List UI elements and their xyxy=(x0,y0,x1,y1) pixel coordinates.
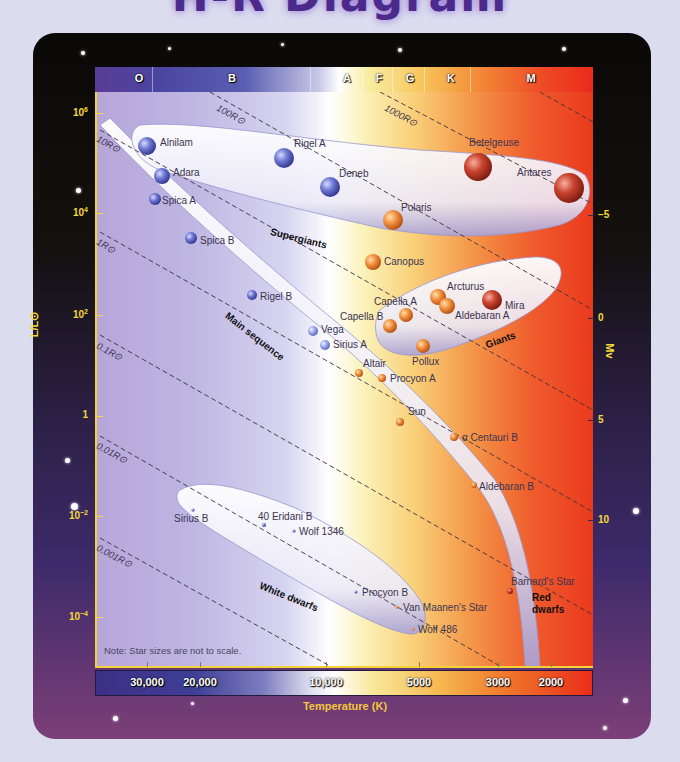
star-label: α Centauri B xyxy=(462,432,518,443)
y-right-tick-label: 10 xyxy=(598,514,609,525)
y-tick-label: 1 xyxy=(58,409,88,420)
star-label: Arcturus xyxy=(447,281,484,292)
y-right-tick-label: 0 xyxy=(598,312,604,323)
spectral-class-f: F xyxy=(376,72,383,84)
spectral-divider xyxy=(392,67,393,92)
spectral-class-o: O xyxy=(135,72,144,84)
x-axis-title: Temperature (K) xyxy=(300,700,390,712)
x-tick-label: 10,000 xyxy=(309,676,343,688)
y-tick xyxy=(97,315,103,316)
star-label: Capella A xyxy=(374,296,417,307)
star-label: Sirius A xyxy=(333,339,367,350)
y-right-tick xyxy=(588,420,594,421)
star-label: Betelgeuse xyxy=(469,137,519,148)
star-label: Antares xyxy=(517,167,551,178)
y-right-tick xyxy=(588,318,594,319)
star-label: Sirius B xyxy=(174,513,208,524)
y-right-tick xyxy=(588,215,594,216)
star-label: Mira xyxy=(505,300,524,311)
spectral-class-k: K xyxy=(447,72,455,84)
y-tick-label: 106 xyxy=(58,106,88,118)
y-right-tick xyxy=(588,520,594,521)
background-star xyxy=(398,48,402,52)
background-star xyxy=(65,458,70,463)
background-star xyxy=(281,43,284,46)
page-title: H-R Diagram xyxy=(0,0,680,18)
spectral-divider xyxy=(470,67,471,92)
y-tick-label: 10−2 xyxy=(58,509,88,521)
x-tick-label: 2000 xyxy=(539,676,563,688)
star-label: Adara xyxy=(173,167,200,178)
star-label: Van Maanen's Star xyxy=(403,602,487,613)
star-label: Barnard's Star xyxy=(511,576,575,587)
background-star xyxy=(81,51,85,55)
x-tick-label: 5000 xyxy=(407,676,431,688)
star-label: Spica A xyxy=(162,195,196,206)
spectral-divider xyxy=(424,67,425,92)
star-label: Procyon B xyxy=(362,587,408,598)
star-label: Rigel B xyxy=(260,291,292,302)
spectral-class-m: M xyxy=(526,72,535,84)
y-tick-label: 10−4 xyxy=(58,610,88,622)
background-star xyxy=(603,726,607,730)
star-label: Wolf 1346 xyxy=(299,526,344,537)
background-star xyxy=(633,508,639,514)
background-star xyxy=(113,716,118,721)
star-label: Aldebaran B xyxy=(479,481,534,492)
y-tick xyxy=(97,516,103,517)
star-label: Sun xyxy=(408,406,426,417)
star-label: Pollux xyxy=(412,356,439,367)
star-label: Rigel A xyxy=(294,138,326,149)
scale-note: Note: Star sizes are not to scale. xyxy=(104,645,241,656)
region-label-red-dwarfs: Red dwarfs xyxy=(532,592,568,616)
star-label: Aldebaran A xyxy=(455,310,510,321)
star-label: Polaris xyxy=(401,202,432,213)
spectral-divider xyxy=(152,67,153,92)
x-tick xyxy=(419,662,420,667)
background-star xyxy=(76,188,81,193)
star-label: Wolf 486 xyxy=(418,624,457,635)
star-label: Capella B xyxy=(340,311,383,322)
spectral-divider xyxy=(310,67,311,92)
spectral-divider xyxy=(362,67,363,92)
y-tick-label: 104 xyxy=(58,206,88,218)
x-tick xyxy=(326,662,327,667)
y-tick xyxy=(97,416,103,417)
y-tick-label: 102 xyxy=(58,308,88,320)
background-star xyxy=(168,47,171,50)
y-axis-title: L/L⊙ xyxy=(28,312,41,338)
star-label: Procyon A xyxy=(390,373,436,384)
y-right-axis-title: Mv xyxy=(604,343,616,358)
x-tick xyxy=(551,662,552,667)
y-tick xyxy=(97,213,103,214)
spectral-class-g: G xyxy=(406,72,415,84)
y-right-tick-label: −5 xyxy=(598,209,609,220)
x-tick xyxy=(147,662,148,667)
x-tick-label: 20,000 xyxy=(183,676,217,688)
star-label: Altair xyxy=(363,358,386,369)
y-right-tick-label: 5 xyxy=(598,414,604,425)
x-tick-label: 30,000 xyxy=(130,676,164,688)
star-label: Canopus xyxy=(384,256,424,267)
x-tick xyxy=(498,662,499,667)
spectral-class-a: A xyxy=(343,72,351,84)
x-tick-label: 3000 xyxy=(486,676,510,688)
temperature-bar xyxy=(95,670,593,696)
star-label: Spica B xyxy=(200,235,234,246)
star-label: Deneb xyxy=(339,168,368,179)
spectral-class-b: B xyxy=(228,72,236,84)
y-tick xyxy=(97,113,103,114)
y-tick xyxy=(97,617,103,618)
star-label: Alnilam xyxy=(160,137,193,148)
background-star xyxy=(191,702,194,705)
x-tick xyxy=(200,662,201,667)
background-star xyxy=(623,698,628,703)
star-label: Vega xyxy=(321,324,344,335)
background-star xyxy=(562,47,566,51)
star-label: 40 Eridani B xyxy=(258,511,312,522)
